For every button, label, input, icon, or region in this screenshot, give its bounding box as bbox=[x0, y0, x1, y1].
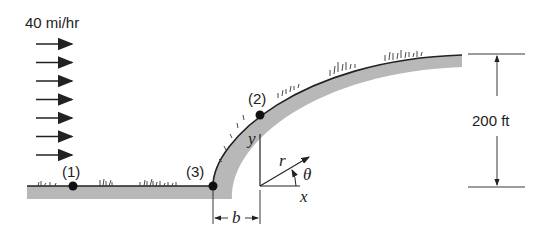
point-2-label: (2) bbox=[248, 90, 266, 107]
r-label: r bbox=[279, 151, 286, 170]
b-dimension-label: b bbox=[232, 208, 241, 227]
wind-speed-label: 40 mi/hr bbox=[25, 14, 79, 31]
hill-flow-diagram: 40 mi/hr (1) (2) (3) y x r θ b 200 ft bbox=[0, 0, 556, 235]
wind-arrows bbox=[36, 44, 72, 155]
point-2-marker bbox=[256, 111, 265, 120]
theta-arc bbox=[292, 170, 296, 186]
point-1-label: (1) bbox=[62, 163, 80, 180]
point-3-label: (3) bbox=[186, 163, 204, 180]
theta-label: θ bbox=[303, 165, 311, 184]
ground-surface-line bbox=[27, 55, 462, 186]
x-axis-label: x bbox=[299, 187, 308, 206]
height-dimension-label: 200 ft bbox=[472, 112, 510, 129]
y-axis-label: y bbox=[246, 129, 256, 148]
ground-flat bbox=[27, 186, 213, 199]
point-3-marker bbox=[209, 182, 218, 191]
point-1-marker bbox=[69, 182, 78, 191]
